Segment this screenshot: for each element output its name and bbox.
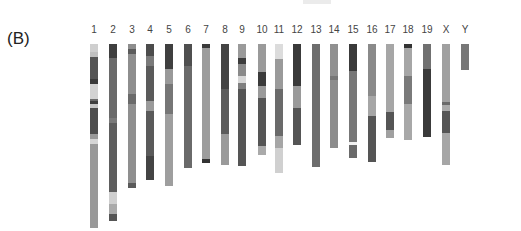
chromosome-12 [293, 44, 301, 145]
chromosome-label: 7 [196, 24, 216, 35]
chromosome-band [238, 89, 246, 166]
chromosome-band [128, 183, 136, 188]
chromosome-band [90, 108, 98, 134]
chromosome-band [238, 44, 246, 58]
chromosome-band [184, 44, 192, 66]
chromosome-label: 18 [398, 24, 418, 35]
chromosome-14 [330, 44, 338, 148]
chromosome-band [312, 44, 320, 167]
chromosome-band [238, 64, 246, 76]
chromosome-label: 13 [306, 24, 326, 35]
chromosome-band [90, 144, 98, 228]
chromosome-3 [128, 44, 136, 188]
chromosome-band [128, 54, 136, 94]
chromosome-19 [423, 44, 431, 137]
chromosome-band [109, 204, 117, 214]
chromosome-band [368, 116, 376, 162]
chromosome-18 [404, 44, 412, 140]
chromosome-label: 2 [103, 24, 123, 35]
chromosome-band [109, 214, 117, 221]
faint-artifact [303, 0, 331, 4]
chromosome-label: 5 [159, 24, 179, 35]
chromosome-band [368, 96, 376, 116]
chromosome-band [258, 146, 266, 155]
chromosome-band [165, 114, 173, 186]
chromosome-band [221, 134, 229, 165]
chromosome-6 [184, 44, 192, 168]
chromosome-band [258, 72, 266, 86]
chromosome-band [258, 98, 266, 146]
chromosome-band [275, 44, 283, 59]
chromosome-band [442, 133, 450, 165]
chromosome-band [368, 44, 376, 96]
chromosome-X [442, 44, 450, 165]
chromosome-band [184, 66, 192, 168]
chromosome-band [165, 44, 173, 69]
chromosome-label: 6 [178, 24, 198, 35]
chromosome-band [109, 192, 117, 204]
chromosome-label: 12 [287, 24, 307, 35]
chromosome-2 [109, 44, 117, 221]
chromosome-7 [202, 44, 210, 163]
chromosome-label: 4 [140, 24, 160, 35]
chromosome-17 [386, 44, 394, 138]
chromosome-10 [258, 44, 266, 155]
chromosome-band [386, 130, 394, 138]
chromosome-16 [368, 44, 376, 162]
chromosome-band [293, 44, 301, 86]
chromosome-band [293, 86, 301, 108]
chromosome-band [330, 44, 338, 76]
chromosome-band [275, 89, 283, 136]
chromosome-band [221, 44, 229, 89]
chromosome-Y [461, 44, 469, 70]
chromosome-band [165, 69, 173, 84]
chromosome-band [165, 84, 173, 114]
chromosome-band [90, 44, 98, 52]
chromosome-label: 14 [324, 24, 344, 35]
chromosome-band [109, 123, 117, 192]
chromosome-band [258, 44, 266, 72]
chromosome-1 [90, 44, 98, 228]
chromosome-band [109, 58, 117, 118]
chromosome-band [293, 108, 301, 145]
chromosome-band [202, 48, 210, 159]
chromosome-label: 15 [343, 24, 363, 35]
chromosome-label: 16 [362, 24, 382, 35]
chromosome-band [349, 44, 357, 71]
chromosome-band [258, 86, 266, 98]
chromosome-label: X [436, 24, 456, 35]
chromosome-band [349, 71, 357, 142]
panel-label: (B) [7, 29, 30, 49]
chromosome-band [128, 104, 136, 183]
chromosome-11 [275, 44, 283, 173]
chromosome-label: 9 [232, 24, 252, 35]
chromosome-band [146, 56, 154, 66]
chromosome-label: 3 [122, 24, 142, 35]
chromosome-label: 19 [417, 24, 437, 35]
chromosome-4 [146, 44, 154, 180]
chromosome-band [146, 156, 154, 180]
chromosome-band [423, 44, 431, 69]
chromosome-label: Y [455, 24, 475, 35]
chromosome-ideogram-figure: (B) 12345678910111213141516171819XY [0, 0, 521, 231]
chromosome-band [238, 76, 246, 83]
chromosome-band [386, 44, 394, 112]
chromosome-label: 11 [269, 24, 289, 35]
chromosome-band [386, 112, 394, 130]
chromosome-band [146, 44, 154, 56]
chromosome-label: 17 [380, 24, 400, 35]
chromosome-band [423, 69, 431, 137]
chromosome-band [330, 80, 338, 148]
chromosome-band [90, 84, 98, 99]
chromosome-9 [238, 44, 246, 166]
chromosome-13 [312, 44, 320, 167]
chromosome-label: 1 [84, 24, 104, 35]
chromosome-band [146, 101, 154, 111]
chromosome-band [275, 148, 283, 173]
chromosome-band [349, 145, 357, 158]
chromosome-band [90, 57, 98, 79]
chromosome-band [146, 111, 154, 156]
chromosome-band [442, 111, 450, 133]
chromosome-band [404, 76, 412, 104]
chromosome-band [146, 66, 154, 101]
